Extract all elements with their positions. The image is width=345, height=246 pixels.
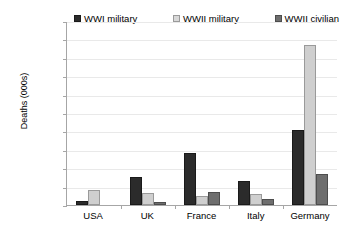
bar bbox=[262, 199, 274, 205]
legend-swatch-icon bbox=[173, 15, 180, 22]
bar bbox=[304, 45, 316, 205]
bar bbox=[316, 174, 328, 205]
legend-swatch-icon bbox=[74, 15, 81, 22]
bar bbox=[88, 190, 100, 205]
bar-group-italy bbox=[229, 22, 283, 205]
bar bbox=[184, 153, 196, 205]
bar-group-layer bbox=[67, 22, 337, 205]
bar-group-france bbox=[175, 22, 229, 205]
y-axis-tick bbox=[63, 206, 67, 207]
y-axis-title: Deaths (000s) bbox=[19, 51, 29, 151]
bar bbox=[142, 193, 154, 205]
x-axis-label-germany: Germany bbox=[283, 209, 337, 225]
x-axis-label-usa: USA bbox=[66, 209, 120, 225]
x-axis-labels: USAUKFranceItalyGermany bbox=[66, 209, 337, 225]
bar bbox=[238, 181, 250, 205]
x-axis-label-uk: UK bbox=[120, 209, 174, 225]
bar-chart: Deaths (000s) WWI military WWII military… bbox=[0, 0, 345, 246]
bar-group-uk bbox=[121, 22, 175, 205]
plot-area: 05001,0001,5002,0002,5003,0003,5004,0004… bbox=[66, 22, 337, 206]
x-axis-label-italy: Italy bbox=[229, 209, 283, 225]
bar bbox=[76, 201, 88, 205]
bar bbox=[292, 130, 304, 205]
x-axis-label-france: France bbox=[174, 209, 228, 225]
bar bbox=[196, 196, 208, 205]
bar-group-usa bbox=[67, 22, 121, 205]
bar bbox=[130, 177, 142, 205]
bar bbox=[154, 202, 166, 205]
bar bbox=[208, 192, 220, 205]
legend-swatch-icon bbox=[275, 15, 282, 22]
bar bbox=[250, 194, 262, 205]
bar-group-germany bbox=[283, 22, 337, 205]
